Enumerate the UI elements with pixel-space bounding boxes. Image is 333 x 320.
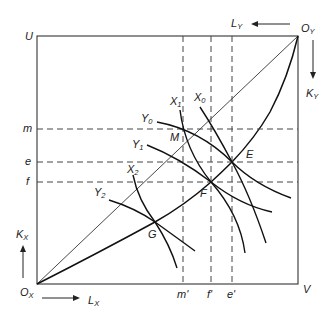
origin-y-label: OY [301, 22, 316, 36]
guide-label-f: f [26, 175, 30, 187]
edgeworth-box-diagram: U V OX OY LX KX LY KY m e f m' f' e' M E… [0, 0, 333, 320]
point-label-e: E [246, 148, 254, 160]
box-diagonal [37, 36, 298, 284]
ly-arrowhead-icon [251, 21, 258, 27]
ky-arrowhead-icon [310, 72, 316, 79]
isoquant-label-x1: X1 [169, 95, 182, 109]
isoquant-label-x2: X2 [126, 163, 139, 177]
corner-label-v: V [303, 283, 312, 295]
guide-label-m-prime: m' [177, 288, 189, 300]
isoquant-label-y0: Y0 [141, 112, 153, 126]
guide-label-m: m [23, 122, 32, 134]
ly-label: LY [231, 17, 243, 31]
ky-label: KY [306, 87, 319, 101]
lx-arrowhead-icon [73, 295, 80, 301]
kx-label: KX [16, 228, 29, 242]
origin-x-label: OX [20, 286, 35, 300]
isoquant-y2 [109, 200, 195, 251]
isoquant-label-x0: X0 [193, 91, 206, 105]
guide-label-f-prime: f' [207, 288, 213, 300]
corner-label-u: U [25, 30, 33, 42]
point-label-m: M [170, 131, 180, 143]
isoquant-x0 [200, 107, 266, 243]
guide-label-e: e [25, 155, 31, 167]
isoquant-label-y2: Y2 [94, 186, 106, 200]
point-label-f: F [200, 187, 208, 199]
point-label-g: G [148, 228, 157, 240]
isoquant-label-y1: Y1 [132, 138, 144, 152]
guide-label-e-prime: e' [227, 288, 236, 300]
isoquant-x2 [133, 175, 177, 268]
kx-arrowhead-icon [20, 245, 26, 252]
lx-label: LX [88, 294, 100, 308]
